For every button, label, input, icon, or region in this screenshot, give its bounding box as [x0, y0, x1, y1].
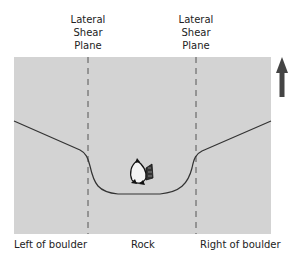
diagram-graphics: [0, 0, 300, 257]
left-of-boulder-label: Left of boulder: [14, 239, 87, 250]
rock-label: Rock: [131, 239, 155, 250]
right-of-boulder-label: Right of boulder: [200, 239, 281, 250]
arrow-up-icon: [276, 57, 288, 97]
fish-icon: [131, 158, 153, 185]
